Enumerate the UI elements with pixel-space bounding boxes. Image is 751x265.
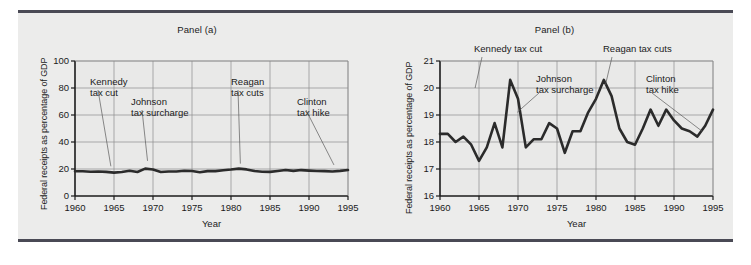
svg-text:Year: Year [202, 218, 221, 229]
svg-text:tax hike: tax hike [297, 107, 330, 118]
svg-text:18: 18 [423, 136, 434, 147]
svg-text:Year: Year [567, 218, 586, 229]
svg-text:1995: 1995 [702, 202, 723, 213]
svg-text:1975: 1975 [181, 202, 202, 213]
svg-text:1985: 1985 [624, 202, 645, 213]
svg-text:1975: 1975 [546, 202, 567, 213]
svg-text:1965: 1965 [103, 202, 124, 213]
figure-root: Panel (a) Federal receipts as percentage… [0, 0, 751, 265]
svg-text:17: 17 [423, 163, 434, 174]
svg-text:1970: 1970 [507, 202, 528, 213]
svg-text:Johnson: Johnson [131, 96, 167, 107]
svg-text:0: 0 [64, 190, 69, 201]
svg-text:19: 19 [423, 109, 434, 120]
svg-text:Kennedy tax cut: Kennedy tax cut [474, 43, 542, 54]
svg-text:1995: 1995 [337, 202, 358, 213]
svg-text:1960: 1960 [64, 202, 85, 213]
panel-a: Panel (a) Federal receipts as percentage… [18, 10, 376, 242]
panel-b-plot: 1617181920211960196519701975198019851990… [376, 10, 733, 242]
svg-text:40: 40 [58, 136, 69, 147]
svg-text:Clinton: Clinton [297, 96, 327, 107]
svg-text:tax cut: tax cut [90, 87, 118, 98]
svg-text:tax surcharge: tax surcharge [131, 107, 189, 118]
svg-text:1980: 1980 [585, 202, 606, 213]
svg-text:80: 80 [58, 82, 69, 93]
svg-text:60: 60 [58, 109, 69, 120]
svg-text:21: 21 [423, 55, 434, 66]
panel-a-plot: 0204060801001960196519701975198019851990… [18, 10, 376, 242]
svg-text:16: 16 [423, 190, 434, 201]
svg-text:1985: 1985 [259, 202, 280, 213]
svg-text:1990: 1990 [663, 202, 684, 213]
svg-text:tax hike: tax hike [646, 84, 679, 95]
svg-text:Reagan: Reagan [231, 76, 264, 87]
svg-text:20: 20 [423, 82, 434, 93]
svg-text:100: 100 [53, 55, 69, 66]
svg-text:Johnson: Johnson [536, 73, 572, 84]
svg-text:1980: 1980 [220, 202, 241, 213]
svg-text:20: 20 [58, 163, 69, 174]
svg-text:Clinton: Clinton [646, 73, 676, 84]
svg-text:1990: 1990 [298, 202, 319, 213]
svg-text:1960: 1960 [429, 202, 450, 213]
svg-text:Kennedy: Kennedy [90, 76, 128, 87]
svg-text:Reagan tax cuts: Reagan tax cuts [603, 43, 672, 54]
panel-b: Panel (b) Federal receipts as percentage… [376, 10, 733, 242]
svg-text:tax cuts: tax cuts [231, 87, 264, 98]
svg-text:tax surcharge: tax surcharge [536, 84, 594, 95]
svg-text:1970: 1970 [142, 202, 163, 213]
svg-text:1965: 1965 [468, 202, 489, 213]
